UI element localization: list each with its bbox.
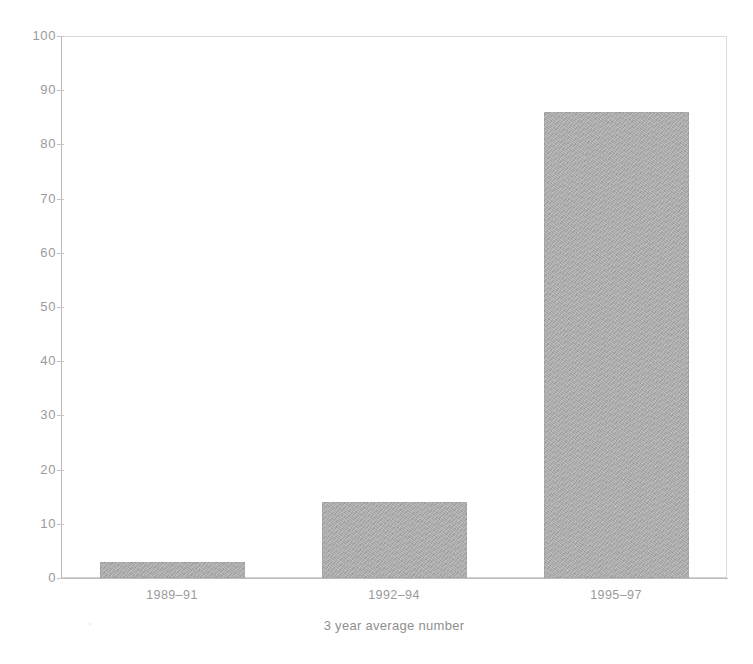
bar-column — [544, 36, 689, 578]
y-axis-tick-mark — [57, 524, 64, 525]
y-axis-tick-mark — [57, 415, 64, 416]
bar-3 — [544, 112, 689, 578]
y-axis-tick-label: 10 — [6, 516, 56, 532]
y-axis-tick-mark — [57, 578, 64, 579]
x-axis-tick-label: 1992–94 — [283, 588, 505, 602]
y-axis-tick-mark — [57, 470, 64, 471]
bar-column — [322, 36, 467, 578]
y-axis-tick-mark — [57, 361, 64, 362]
y-axis-tick-label: 0 — [6, 570, 56, 586]
y-axis-tick-label: 90 — [6, 82, 56, 98]
x-axis-line — [61, 578, 728, 579]
y-axis-tick-label: 30 — [6, 407, 56, 423]
y-axis-tick-mark — [57, 199, 64, 200]
y-axis-tick-mark — [57, 253, 64, 254]
x-axis-title: 3 year average number — [61, 618, 727, 633]
bar-column — [100, 36, 245, 578]
x-axis-tick-label: 1989–91 — [61, 588, 283, 602]
bar-1 — [100, 562, 245, 578]
bar-2 — [322, 502, 467, 578]
y-axis-tick-label: 60 — [6, 245, 56, 261]
y-axis-tick-mark — [57, 36, 64, 37]
y-axis-tick-mark — [57, 144, 64, 145]
x-axis-tick-label: 1995–97 — [505, 588, 727, 602]
y-axis-tick-mark — [57, 90, 64, 91]
y-axis-tick-label: 80 — [6, 136, 56, 152]
y-axis-tick-label: 50 — [6, 299, 56, 315]
y-axis-tick-label: 70 — [6, 191, 56, 207]
y-axis-tick-label: 100 — [6, 28, 56, 44]
bar-chart-figure: 0102030405060708090100 1989–911992–94199… — [0, 0, 753, 664]
y-axis-tick-label: 40 — [6, 353, 56, 369]
y-axis-tick-mark — [57, 307, 64, 308]
y-axis-tick-label: 20 — [6, 462, 56, 478]
